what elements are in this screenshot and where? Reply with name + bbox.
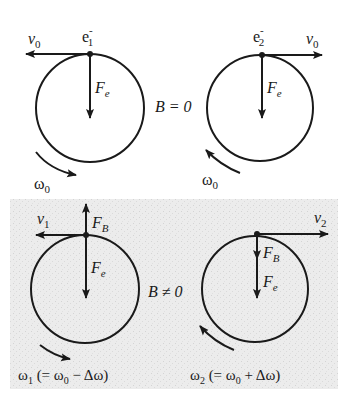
omega-label: ω0 [34, 175, 51, 195]
velocity-label: v0 [306, 30, 319, 50]
orbit-circle [207, 55, 313, 161]
electric-force-label: Fe [266, 79, 282, 99]
electron-dot [83, 232, 89, 238]
rotation-arrow [36, 152, 76, 175]
electric-force-label: Fe [94, 79, 110, 99]
electron-dot [87, 51, 93, 57]
electron-dot [254, 231, 260, 237]
top-left-orbit: v0 e-1 Fe ω0 [26, 24, 144, 195]
electron-label: e-1 [82, 24, 93, 48]
electron-label: e-2 [253, 24, 264, 48]
rotation-arrow [206, 150, 240, 173]
orbital-electron-diagram: v0 e-1 Fe ω0 B = 0 e-2 v0 Fe ω0 v1 FB Fe… [0, 0, 351, 398]
omega-label: ω0 [202, 171, 219, 191]
field-condition-label-bottom: B ≠ 0 [148, 283, 183, 300]
velocity-label: v0 [28, 30, 41, 50]
field-condition-label-top: B = 0 [155, 98, 192, 115]
electron-dot [259, 52, 265, 58]
top-right-orbit: e-2 v0 Fe ω0 [202, 24, 322, 191]
